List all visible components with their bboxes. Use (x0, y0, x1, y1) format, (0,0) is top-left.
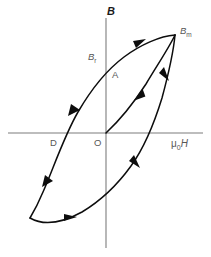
remanence-label: Br (88, 52, 97, 64)
x-axis-label: μ0H (171, 139, 188, 151)
descending-arrow-lower-icon (42, 175, 53, 187)
point-a-label: A (112, 70, 118, 80)
descending-arrow-middle-icon (68, 104, 80, 116)
y-axis-label: B (107, 6, 115, 17)
x-axis-label-h: H (181, 138, 188, 149)
saturation-label-sub: m (186, 31, 191, 38)
initial-magnetization-curve (106, 35, 175, 133)
saturation-label: Bm (180, 26, 192, 38)
origin-label: O (94, 138, 101, 148)
hysteresis-plot-area (0, 0, 211, 257)
hysteresis-figure: B μ0H O D A Br Bm (0, 0, 211, 257)
ascending-branch-curve (30, 35, 175, 223)
remanence-label-sub: r (94, 57, 96, 64)
initial-curve-arrow-icon (133, 88, 146, 100)
coercivity-label: D (50, 138, 57, 148)
descending-branch-curve (30, 35, 175, 218)
